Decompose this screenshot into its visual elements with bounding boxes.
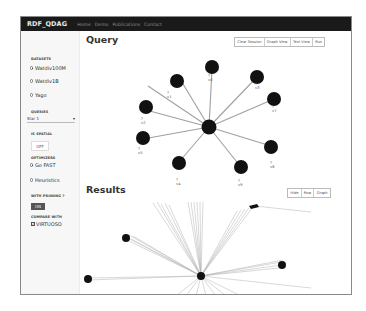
optimizer-option-go-fast[interactable]: Go FAST (30, 162, 55, 168)
node-label: ?v4 (176, 178, 180, 186)
query-title: Query (86, 34, 118, 45)
radio-icon[interactable] (30, 178, 33, 181)
compare-with-label: COMPARE WITH (31, 215, 62, 219)
query-select-value: Star 1 (27, 116, 39, 121)
results-title: Results (86, 184, 126, 195)
radio-label: Yago (35, 92, 47, 98)
dataset-option-yago[interactable]: Yago (30, 92, 47, 98)
queries-label: QUERIES (31, 110, 48, 114)
radio-label: Watdiv100M (35, 65, 66, 71)
radio-icon[interactable] (30, 79, 33, 82)
checkbox-label: VIRTUOSO (36, 221, 62, 227)
radio-label: Heuristics (35, 177, 60, 183)
node-label: ?v2 (141, 117, 145, 125)
optimizer-option-heuristics[interactable]: Heuristics (30, 177, 60, 183)
clear-session-button[interactable]: Clear Session (235, 38, 265, 46)
compare-virtuoso-checkbox[interactable]: ✓ VIRTUOSO (31, 221, 62, 227)
node-label: ?v9 (238, 179, 242, 187)
with-pruning-toggle[interactable]: ON (31, 203, 45, 210)
datasets-label: DATASETS (31, 57, 51, 61)
app-window: RDF_QDAG Home Demo Publications Contact … (20, 16, 352, 295)
results-toolbar: Hide Row Graph (287, 188, 331, 198)
node-label: ?v5 (138, 147, 142, 155)
sidebar: DATASETS Watdiv100M Watdiv1B Yago QUERIE… (21, 31, 80, 294)
radio-icon[interactable] (30, 163, 33, 166)
node-label: ?v0 (208, 74, 212, 82)
nav-link-publications[interactable]: Publications (112, 22, 140, 27)
text-view-button[interactable]: Text View (291, 38, 313, 46)
brand-logo[interactable]: RDF_QDAG (27, 20, 67, 28)
checkbox-icon[interactable]: ✓ (31, 222, 35, 226)
dataset-option-watdiv100m[interactable]: Watdiv100M (30, 65, 66, 71)
node-label: ?v6 (270, 161, 274, 169)
dataset-option-watdiv1b[interactable]: Watdiv1B (30, 78, 59, 84)
nav-link-contact[interactable]: Contact (144, 22, 162, 27)
radio-label: Go FAST (35, 162, 56, 168)
graph-button[interactable]: Graph (314, 189, 329, 197)
node-label: ?v1 (167, 91, 171, 99)
node-label: ?v7 (272, 105, 276, 113)
with-pruning-label: WITH PRUNING ? (31, 194, 64, 198)
query-select[interactable]: Star 1 ▾ (27, 115, 75, 123)
graph-view-button[interactable]: Graph View (265, 38, 291, 46)
query-node-center (202, 120, 217, 135)
results-node-center (197, 272, 205, 280)
chevron-down-icon: ▾ (73, 116, 75, 121)
radio-icon[interactable] (30, 93, 33, 96)
row-button[interactable]: Row (302, 189, 315, 197)
run-button[interactable]: Run (313, 38, 324, 46)
radio-label: Watdiv1B (35, 78, 59, 84)
radio-icon[interactable] (30, 66, 33, 69)
node-label: ?v3 (255, 82, 259, 90)
query-toolbar: Clear Session Graph View Text View Run (234, 37, 325, 47)
results-graph[interactable] (81, 200, 352, 295)
top-navbar: RDF_QDAG Home Demo Publications Contact (21, 17, 351, 31)
is-spatial-label: IS SPATIAL (31, 132, 52, 136)
optimizers-label: OPTIMIZERS (31, 156, 55, 160)
nav-link-demo[interactable]: Demo (95, 22, 109, 27)
is-spatial-toggle[interactable]: OFF (31, 141, 49, 151)
hide-button[interactable]: Hide (288, 189, 302, 197)
nav-link-home[interactable]: Home (77, 22, 91, 27)
